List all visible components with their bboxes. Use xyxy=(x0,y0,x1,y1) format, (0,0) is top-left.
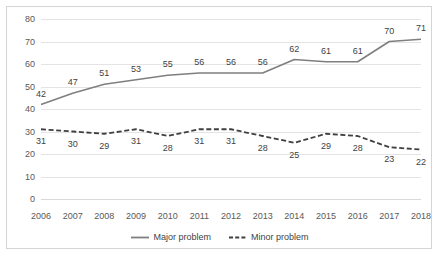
x-axis-tick-2017: 2017 xyxy=(379,212,399,221)
legend-label: Minor problem xyxy=(251,233,309,242)
data-label-minor-problem-2014: 25 xyxy=(289,150,299,159)
chart-legend: Major problemMinor problem xyxy=(7,233,433,242)
data-label-minor-problem-2012: 31 xyxy=(226,137,236,146)
legend-swatch-dashed-line-icon xyxy=(229,233,247,242)
x-axis-labels: 2006200720082009201020112012201320142015… xyxy=(41,205,421,227)
legend-item-minor-problem[interactable]: Minor problem xyxy=(229,233,309,242)
data-label-major-problem-2016: 61 xyxy=(353,46,363,55)
plot-area: 01020304050607080 4247515355565656626161… xyxy=(41,19,421,199)
y-axis-tick-50: 50 xyxy=(25,82,35,91)
data-label-minor-problem-2006: 31 xyxy=(36,137,46,146)
legend-item-major-problem[interactable]: Major problem xyxy=(131,233,211,242)
x-axis-tick-2010: 2010 xyxy=(158,212,178,221)
x-axis-tick-2016: 2016 xyxy=(348,212,368,221)
y-axis-tick-70: 70 xyxy=(25,37,35,46)
y-axis-tick-20: 20 xyxy=(25,150,35,159)
data-label-minor-problem-2015: 29 xyxy=(321,141,331,150)
y-axis-tick-60: 60 xyxy=(25,60,35,69)
data-label-major-problem-2008: 51 xyxy=(99,69,109,78)
data-label-minor-problem-2007: 30 xyxy=(68,139,78,148)
data-label-minor-problem-2016: 28 xyxy=(353,144,363,153)
x-axis-tick-2011: 2011 xyxy=(190,212,209,221)
data-label-major-problem-2010: 55 xyxy=(163,60,173,69)
series-lines xyxy=(41,19,421,199)
data-label-major-problem-2014: 62 xyxy=(289,44,299,53)
data-label-minor-problem-2011: 31 xyxy=(194,137,204,146)
data-label-major-problem-2006: 42 xyxy=(36,89,46,98)
x-axis-tick-2008: 2008 xyxy=(94,212,114,221)
data-label-major-problem-2018: 71 xyxy=(416,24,426,33)
x-axis-tick-2012: 2012 xyxy=(221,212,241,221)
x-axis-tick-2009: 2009 xyxy=(126,212,146,221)
gridline-0 xyxy=(41,199,421,200)
data-label-major-problem-2015: 61 xyxy=(321,46,331,55)
legend-swatch-solid-line-icon xyxy=(131,233,149,242)
y-axis-tick-80: 80 xyxy=(25,15,35,24)
data-label-major-problem-2012: 56 xyxy=(226,58,236,67)
data-label-major-problem-2013: 56 xyxy=(258,58,268,67)
data-label-minor-problem-2017: 23 xyxy=(384,155,394,164)
x-axis-tick-2007: 2007 xyxy=(63,212,83,221)
data-label-major-problem-2017: 70 xyxy=(384,26,394,35)
x-axis-tick-2013: 2013 xyxy=(253,212,273,221)
x-axis-tick-2018: 2018 xyxy=(411,212,431,221)
series-line-major-problem xyxy=(41,39,421,104)
data-label-minor-problem-2010: 28 xyxy=(163,144,173,153)
data-label-minor-problem-2018: 22 xyxy=(416,157,426,166)
data-label-major-problem-2009: 53 xyxy=(131,64,141,73)
y-axis-tick-40: 40 xyxy=(25,105,35,114)
data-label-major-problem-2011: 56 xyxy=(194,58,204,67)
data-label-major-problem-2007: 47 xyxy=(68,78,78,87)
y-axis-tick-10: 10 xyxy=(25,172,35,181)
data-label-minor-problem-2009: 31 xyxy=(131,137,141,146)
data-label-minor-problem-2008: 29 xyxy=(99,141,109,150)
legend-label: Major problem xyxy=(153,233,211,242)
x-axis-tick-2014: 2014 xyxy=(284,212,304,221)
data-label-minor-problem-2013: 28 xyxy=(258,144,268,153)
y-axis-tick-30: 30 xyxy=(25,127,35,136)
chart-container: 01020304050607080 4247515355565656626161… xyxy=(6,6,432,249)
x-axis-tick-2015: 2015 xyxy=(316,212,336,221)
y-axis-tick-0: 0 xyxy=(30,195,35,204)
x-axis-tick-2006: 2006 xyxy=(31,212,51,221)
